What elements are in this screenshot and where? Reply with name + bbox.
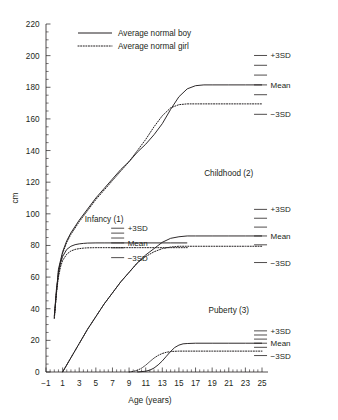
y-axis-tick-label: 160: [26, 115, 40, 124]
sd-label-mean-puberty: Mean: [271, 339, 291, 348]
y-axis-tick-label: 200: [26, 52, 40, 61]
legend-label-boy: Average normal boy: [118, 29, 192, 38]
sd-label-plus3sd-infancy: +3SD: [128, 224, 148, 233]
x-axis-tick-label: 7: [110, 379, 115, 388]
sd-label-mean-childhood: Mean: [271, 232, 291, 241]
x-axis-tick-label: 25: [257, 379, 267, 388]
x-axis-tick-label: 21: [224, 379, 234, 388]
legend-label-girl: Average normal girl: [118, 42, 189, 51]
y-axis-tick-label: 20: [30, 336, 40, 345]
x-axis-tick-label: 17: [191, 379, 201, 388]
growth-chart-figure: 020406080100120140160180200220−113579111…: [0, 0, 338, 420]
y-axis-tick-label: 80: [30, 241, 40, 250]
x-axis-tick-label: 5: [94, 379, 99, 388]
sd-label-minus3sd-childhood: −3SD: [271, 259, 291, 268]
y-axis-tick-label: 60: [30, 273, 40, 282]
phase-label-infancy: Infancy (1): [85, 215, 124, 224]
growth-chart-svg: 020406080100120140160180200220−113579111…: [0, 0, 338, 420]
y-axis-tick-label: 140: [26, 147, 40, 156]
sd-label-minus3sd-total: −3SD: [271, 110, 291, 119]
sd-label-plus3sd-childhood: +3SD: [271, 205, 291, 214]
x-axis-tick-label: 1: [60, 379, 65, 388]
x-axis-tick-label: 13: [158, 379, 168, 388]
y-axis-tick-label: 220: [26, 20, 40, 29]
sd-label-mean-total: Mean: [271, 81, 291, 90]
y-axis-tick-label: 40: [30, 305, 40, 314]
sd-label-plus3sd-total: +3SD: [271, 51, 291, 60]
sd-label-minus3sd-puberty: −3SD: [271, 352, 291, 361]
x-axis-tick-label: −1: [41, 379, 51, 388]
phase-label-puberty: Puberty (3): [209, 306, 250, 315]
y-axis-tick-label: 100: [26, 210, 40, 219]
y-axis-tick-label: 180: [26, 83, 40, 92]
x-axis-tick-label: 3: [77, 379, 82, 388]
phase-label-childhood: Childhood (2): [204, 169, 253, 178]
y-axis-tick-label: 0: [35, 368, 40, 377]
sd-label-minus3sd-infancy: −3SD: [128, 254, 148, 263]
x-axis-tick-label: 11: [141, 379, 150, 388]
y-axis-title: cm: [10, 192, 20, 203]
x-axis-title: Age (years): [128, 395, 171, 405]
x-axis-tick-label: 19: [208, 379, 218, 388]
sd-label-mean-infancy: Mean: [128, 239, 148, 248]
y-axis-tick-label: 120: [26, 178, 40, 187]
x-axis-tick-label: 15: [174, 379, 184, 388]
x-axis-tick-label: 9: [127, 379, 132, 388]
sd-label-plus3sd-puberty: +3SD: [271, 327, 291, 336]
x-axis-tick-label: 23: [241, 379, 251, 388]
